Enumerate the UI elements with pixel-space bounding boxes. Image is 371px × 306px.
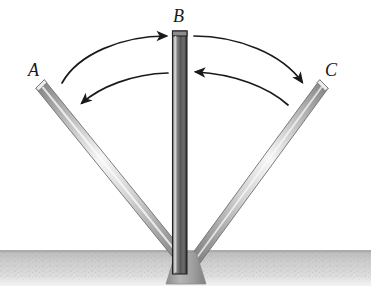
rod-b[interactable] [173,31,188,274]
label-c: C [325,60,338,80]
label-b: B [173,6,184,26]
diagram-canvas: A B C [0,0,371,306]
arc-c-to-b [196,72,288,105]
arc-b-to-c [194,36,302,82]
rod-b-end-cap [173,31,188,36]
arc-b-to-a [82,73,168,103]
rod-a[interactable] [36,80,190,268]
rod-swing-diagram: A B C [0,0,371,306]
arc-a-to-b [62,36,166,83]
rod-c-highlight [192,87,323,266]
rod-b-body [173,31,188,274]
rod-c[interactable] [188,80,328,268]
label-a: A [27,60,40,80]
rod-a-highlight [43,87,188,265]
